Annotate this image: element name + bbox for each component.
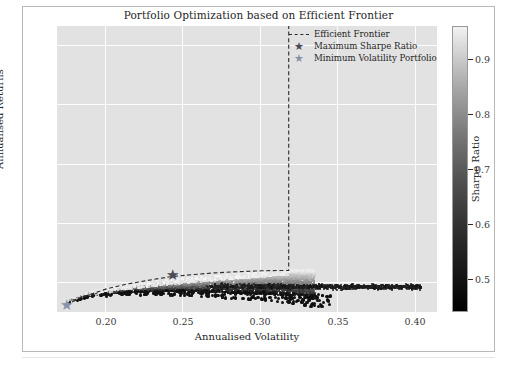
max-sharpe-ratio-marker: ★ (166, 268, 179, 283)
colorbar-tick-label: 0.9 (475, 54, 490, 65)
legend-item-efficient-frontier: Efficient Frontier (288, 28, 437, 40)
min-volatility-marker: ★ (60, 297, 73, 312)
colorbar-tick-label: 0.6 (475, 219, 490, 230)
x-tick-label: 0.40 (404, 316, 425, 327)
legend-label: Maximum Sharpe Ratio (314, 40, 417, 52)
colorbar: 0.50.60.70.80.9 (452, 26, 468, 312)
colorbar-tick (468, 114, 473, 115)
legend-item-min-volatility: ★ Minimum Volatility Portfolio (288, 52, 437, 64)
x-tick-label: 0.20 (95, 316, 116, 327)
dashed-line-icon (288, 34, 310, 35)
legend-item-max-sharpe: ★ Maximum Sharpe Ratio (288, 40, 437, 52)
x-axis-label: Annualised Volatility (57, 331, 437, 342)
chart-title: Portfolio Optimization based on Efficien… (0, 9, 517, 21)
legend: Efficient Frontier ★ Maximum Sharpe Rati… (288, 28, 437, 65)
colorbar-title: Sharpe Ratio (470, 136, 481, 203)
chart-figure: Portfolio Optimization based on Efficien… (0, 0, 517, 370)
colorbar-tick-label: 0.5 (475, 274, 490, 285)
x-tick-label: 0.30 (249, 316, 270, 327)
x-tick-label: 0.35 (327, 316, 348, 327)
legend-label: Minimum Volatility Portfolio (314, 52, 437, 64)
plot-area: ★ ★ (57, 26, 437, 312)
efficient-frontier-line (57, 26, 437, 312)
colorbar-tick (468, 224, 473, 225)
x-tick-label: 0.25 (172, 316, 193, 327)
colorbar-gradient (452, 26, 468, 312)
figure-bottom-rule (22, 357, 495, 358)
y-axis-label: Annualised Returns (0, 69, 5, 169)
star-icon: ★ (288, 53, 310, 64)
colorbar-tick (468, 279, 473, 280)
star-icon: ★ (288, 41, 310, 52)
colorbar-tick-label: 0.8 (475, 109, 490, 120)
colorbar-tick (468, 59, 473, 60)
legend-label: Efficient Frontier (314, 28, 390, 40)
